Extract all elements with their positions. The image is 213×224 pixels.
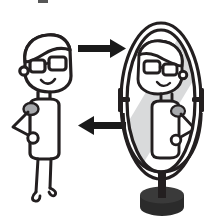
person-badge-circle (28, 133, 38, 143)
mirror-reflection-drawing (0, 0, 213, 224)
reflection-glasses-bridge (160, 67, 163, 68)
arrow-from-mirror-head (78, 116, 94, 135)
cropped-text-artifact (38, 0, 48, 3)
mirror-left-pivot-bar (118, 97, 130, 102)
arrow-from-mirror-shaft (92, 122, 126, 129)
person-ear (20, 67, 28, 75)
person-glasses-right-lens (49, 57, 66, 70)
reflection-ear (179, 71, 187, 79)
mirror-right-pivot-bar (192, 97, 204, 102)
reflection-badge-circle (171, 135, 181, 145)
person-left-foot (32, 192, 40, 201)
reflection-glasses-right-lens (144, 61, 160, 73)
illustration-canvas (0, 0, 213, 224)
arrow-to-mirror (78, 39, 126, 58)
person-figure (13, 35, 71, 201)
arrow-from-mirror (78, 116, 126, 135)
arrow-to-mirror-head (110, 39, 126, 58)
person-right-foot (49, 188, 56, 196)
reflection-glasses-left-lens (163, 64, 177, 75)
person-glasses-left-lens (30, 60, 45, 72)
person-glasses-bridge (45, 63, 49, 64)
person-right-leg (50, 159, 51, 188)
arrow-to-mirror-shaft (78, 45, 112, 52)
person-arm-on-hip (13, 112, 30, 136)
person-left-leg (36, 159, 38, 192)
